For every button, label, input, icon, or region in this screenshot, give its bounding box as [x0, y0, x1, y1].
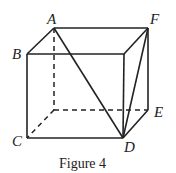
solid-edges — [27, 28, 148, 138]
diagonal-AD — [54, 28, 123, 138]
hidden-edges — [27, 28, 148, 138]
label-B: B — [12, 46, 21, 62]
label-A: A — [46, 11, 57, 27]
figure-caption: Figure 4 — [59, 156, 106, 171]
label-E: E — [153, 104, 163, 120]
label-C: C — [12, 133, 23, 149]
label-F: F — [149, 11, 160, 27]
edge-AB — [27, 28, 54, 54]
hidden-edge-C — [27, 110, 54, 138]
diagonal-FD — [123, 28, 148, 138]
edge-front-right — [123, 54, 124, 138]
label-D: D — [123, 139, 135, 155]
cube-figure: A F B C D E Figure 4 — [0, 0, 176, 173]
